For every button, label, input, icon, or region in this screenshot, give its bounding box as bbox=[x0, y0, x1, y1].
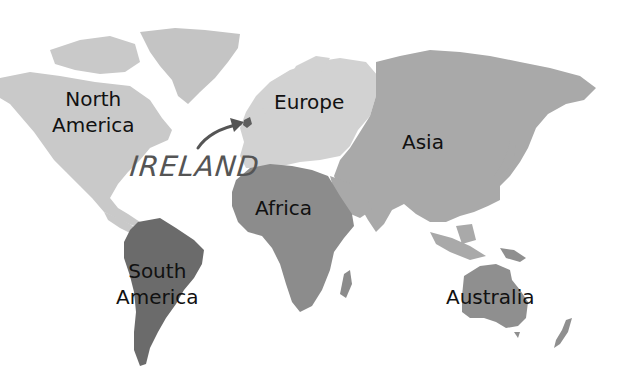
label-australia: Australia bbox=[446, 285, 534, 309]
label-asia: Asia bbox=[402, 130, 444, 154]
label-south-america: South America bbox=[116, 258, 199, 310]
label-europe: Europe bbox=[274, 90, 344, 114]
greenland-shape bbox=[140, 28, 240, 104]
madagascar-shape bbox=[340, 270, 352, 298]
new-guinea-shape bbox=[500, 248, 526, 262]
continents-layer bbox=[0, 0, 632, 390]
world-map: North America Europe Asia Africa South A… bbox=[0, 0, 632, 390]
label-africa: Africa bbox=[255, 196, 312, 220]
arrow-icon bbox=[198, 118, 244, 148]
label-north-america: North America bbox=[52, 86, 135, 138]
tasmania-shape bbox=[514, 332, 520, 338]
label-ireland: IRELAND bbox=[128, 150, 261, 183]
indonesia-shape bbox=[430, 224, 486, 260]
new-zealand-shape bbox=[554, 318, 572, 348]
arctic-islands-shape bbox=[50, 36, 140, 74]
